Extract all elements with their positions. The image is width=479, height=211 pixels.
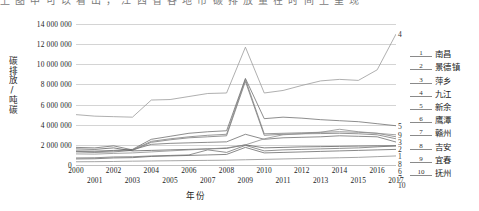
legend-label: 吉安 bbox=[435, 142, 452, 152]
legend-number: 3 bbox=[410, 76, 432, 84]
legend-number: 9 bbox=[410, 155, 432, 163]
legend-label: 南昌 bbox=[435, 49, 452, 59]
y-tick-label: 2 000 000 bbox=[41, 140, 72, 149]
legend-item-4[interactable]: 4九江 bbox=[410, 86, 479, 99]
legend-number: 5 bbox=[410, 102, 432, 110]
x-tick-label: 2000 bbox=[68, 166, 84, 175]
x-tick-label: 2004 bbox=[143, 166, 159, 175]
legend-item-10[interactable]: 10抚州 bbox=[410, 165, 479, 178]
x-tick-label: 2015 bbox=[351, 176, 367, 185]
legend-key-icon: 1 bbox=[410, 48, 432, 59]
x-axis-ticks: 2000200220042006200820102012201420162001… bbox=[76, 166, 396, 190]
y-tick-label: 10 000 000 bbox=[37, 60, 72, 69]
legend-key-icon: 8 bbox=[410, 141, 432, 152]
legend-key-icon: 4 bbox=[410, 88, 432, 99]
legend-item-2[interactable]: 2景德镇 bbox=[410, 59, 479, 72]
x-tick-label: 2005 bbox=[162, 176, 178, 185]
y-tick-label: 8 000 000 bbox=[41, 80, 72, 89]
x-tick-label: 2003 bbox=[125, 176, 141, 185]
x-tick-label: 2011 bbox=[275, 176, 290, 185]
legend-number: 8 bbox=[410, 142, 432, 150]
x-tick-label: 2009 bbox=[238, 176, 254, 185]
series-line-5 bbox=[76, 78, 396, 151]
legend-label: 新余 bbox=[435, 102, 452, 112]
legend-key-icon: 9 bbox=[410, 154, 432, 165]
legend-number: 2 bbox=[410, 62, 432, 70]
legend-key-icon: 2 bbox=[410, 61, 432, 72]
legend-key-icon: 7 bbox=[410, 127, 432, 138]
legend-key-icon: 5 bbox=[410, 101, 432, 112]
series-lines bbox=[76, 24, 396, 165]
x-tick-label: 2001 bbox=[87, 176, 103, 185]
x-tick-label: 2012 bbox=[294, 166, 310, 175]
legend-label: 赣州 bbox=[435, 128, 452, 138]
legend: 1南昌2景德镇3萍乡4九江5新余6鹰潭7赣州8吉安9宜春10抚州 bbox=[410, 46, 479, 178]
series-line-1 bbox=[76, 134, 396, 150]
series-line-3 bbox=[76, 79, 396, 152]
legend-item-1[interactable]: 1南昌 bbox=[410, 46, 479, 59]
series-end-label-4: 4 bbox=[398, 30, 402, 39]
x-axis-title: 年份 bbox=[186, 189, 205, 201]
legend-number: 10 bbox=[410, 168, 432, 176]
page-bleed-text: 上 图 中 可 以 看 出 ， 江 西 省 各 地 市 碳 排 放 量 在 时 … bbox=[0, 0, 479, 9]
legend-item-5[interactable]: 5新余 bbox=[410, 99, 479, 112]
series-end-label-10: 10 bbox=[398, 181, 406, 190]
x-tick-label: 2010 bbox=[256, 166, 272, 175]
y-tick-label: 4 000 000 bbox=[41, 120, 72, 129]
legend-item-6[interactable]: 6鹰潭 bbox=[410, 112, 479, 125]
x-tick-label: 2013 bbox=[313, 176, 329, 185]
legend-number: 4 bbox=[410, 89, 432, 97]
legend-item-3[interactable]: 3萍乡 bbox=[410, 72, 479, 85]
legend-key-icon: 6 bbox=[410, 114, 432, 125]
legend-label: 萍乡 bbox=[435, 76, 452, 86]
carbon-emission-line-chart: 上 图 中 可 以 看 出 ， 江 西 省 各 地 市 碳 排 放 量 在 时 … bbox=[0, 0, 479, 211]
legend-key-icon: 3 bbox=[410, 75, 432, 86]
legend-label: 九江 bbox=[435, 89, 452, 99]
y-tick-label: 14 000 000 bbox=[37, 20, 72, 29]
legend-item-9[interactable]: 9宜春 bbox=[410, 152, 479, 165]
page-bleed-label: 上 图 中 可 以 看 出 ， 江 西 省 各 地 市 碳 排 放 量 在 时 … bbox=[0, 0, 360, 7]
y-tick-label: 6 000 000 bbox=[41, 100, 72, 109]
legend-number: 6 bbox=[410, 115, 432, 123]
legend-label: 宜春 bbox=[435, 155, 452, 165]
series-end-label-5: 5 bbox=[398, 122, 402, 131]
legend-item-7[interactable]: 7赣州 bbox=[410, 125, 479, 138]
x-tick-label: 2002 bbox=[106, 166, 122, 175]
legend-label: 抚州 bbox=[435, 168, 452, 178]
legend-item-8[interactable]: 8吉安 bbox=[410, 138, 479, 151]
legend-label: 景德镇 bbox=[435, 62, 460, 72]
legend-label: 鹰潭 bbox=[435, 115, 452, 125]
y-tick-label: 12 000 000 bbox=[37, 40, 72, 49]
x-tick-label: 2007 bbox=[200, 176, 216, 185]
legend-number: 7 bbox=[410, 128, 432, 136]
y-axis-ticks: 14 000 00012 000 00010 000 0008 000 0006… bbox=[0, 24, 72, 165]
series-line-6 bbox=[76, 145, 396, 158]
plot-area bbox=[76, 24, 396, 165]
legend-key-icon: 10 bbox=[410, 167, 432, 178]
x-tick-label: 2016 bbox=[369, 166, 385, 175]
x-tick-label: 2008 bbox=[219, 166, 235, 175]
legend-number: 1 bbox=[410, 49, 432, 57]
x-tick-label: 2014 bbox=[332, 166, 348, 175]
x-tick-label: 2006 bbox=[181, 166, 197, 175]
